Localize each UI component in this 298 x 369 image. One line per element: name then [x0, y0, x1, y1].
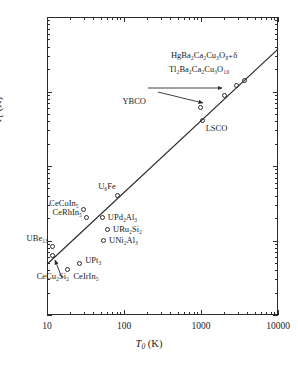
data-point-label: LSCO [206, 124, 228, 133]
data-point-label: U₆Fe [98, 182, 116, 191]
data-point-label: CeCoIn₅ [49, 199, 78, 208]
data-point-label: URu₂Si₂ [113, 225, 142, 234]
x-axis-tick-label: 10000 [248, 322, 298, 332]
data-point[interactable] [242, 78, 247, 83]
y-axis-tick [273, 315, 278, 316]
data-point-label: HgBa₂Ca₂Cu₃O₈₊δ [171, 51, 237, 60]
x-axis-tick [278, 17, 279, 22]
data-point-label: YBCO [122, 97, 146, 106]
data-point-label: CeIrIn₅ [73, 272, 98, 281]
x-axis-tick [278, 310, 279, 315]
data-point[interactable] [100, 215, 105, 220]
y-axis-title: Tc (K) [0, 70, 5, 150]
data-point[interactable] [198, 105, 203, 110]
data-point-label: UNi₂Al₃ [109, 236, 138, 245]
x-axis-tick-label: 100 [94, 322, 154, 332]
data-point-label: UPt₃ [85, 256, 101, 265]
data-point[interactable] [200, 118, 205, 123]
y-axis-tick [47, 315, 52, 316]
x-axis-tick-label: 10 [17, 322, 77, 332]
x-axis-tick-label: 1000 [171, 322, 231, 332]
plot-area: 0.1110100100010100100010000CeCu₂Si₂UBe₁₃… [47, 17, 278, 315]
x-axis-title: T0 (K) [0, 338, 298, 351]
data-point[interactable] [84, 215, 89, 220]
data-point[interactable] [50, 244, 55, 249]
data-point-label: Tl₂Ba₂Ca₂Cu₃O₁₀ [169, 65, 229, 74]
data-point-label: UPd₂Al₃ [108, 213, 138, 222]
data-point[interactable] [105, 227, 110, 232]
data-point-label: CeRhIn₅ [53, 208, 82, 217]
data-point[interactable] [222, 93, 227, 98]
data-point-label: UBe₁₃ [27, 234, 49, 243]
data-point[interactable] [115, 193, 120, 198]
data-point-label: CeCu₂Si₂ [37, 272, 69, 281]
figure: T0 (K) Tc (K) 0.111010010001010010001000… [0, 0, 298, 369]
data-point[interactable] [81, 207, 86, 212]
